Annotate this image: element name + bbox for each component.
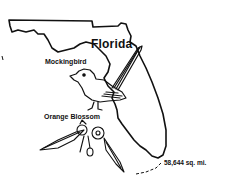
edge-mark [2,56,3,60]
state-flower-label: Orange Blossom [44,113,100,120]
area-label: 58,644 sq. mi. [164,159,206,166]
state-name-label: Florida [91,37,132,51]
orange-blossom-drawing [40,120,124,172]
florida-state-outline [9,20,166,158]
state-bird-label: Mockingbird [45,58,87,65]
area-pointer-line [136,162,162,174]
